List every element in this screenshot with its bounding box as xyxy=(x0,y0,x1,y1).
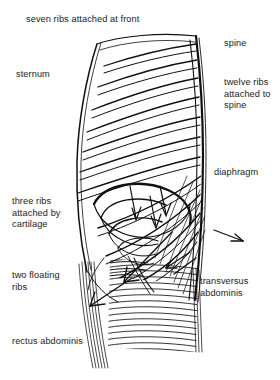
transversus-abdominis-fibres xyxy=(104,256,200,353)
label-seven-ribs-attached-at-front: seven ribs attached at front xyxy=(26,14,171,26)
rib-group-cartilage xyxy=(98,176,201,288)
anatomy-diagram: seven ribs attached at front spine stern… xyxy=(0,0,280,380)
label-two-floating-ribs: two floating ribs xyxy=(12,270,70,293)
label-three-ribs-attached-by-cartilage: three ribs attached by cartilage xyxy=(12,196,74,231)
label-transversus-abdominis: transversus abdominis xyxy=(200,276,280,299)
rib-group-upper xyxy=(78,44,200,201)
label-sternum: sternum xyxy=(16,69,86,81)
rectus-abdominis-fibres xyxy=(79,262,108,368)
label-spine: spine xyxy=(224,38,278,50)
label-rectus-abdominis: rectus abdominis xyxy=(12,336,84,348)
spine-structure xyxy=(189,36,206,302)
ribcage-illustration xyxy=(0,0,280,380)
label-twelve-ribs-attached-to-spine: twelve ribs attached to spine xyxy=(224,77,280,112)
label-diaphragm: diaphragm xyxy=(214,167,280,179)
lower-thorax-outline xyxy=(88,258,118,302)
thorax-apex xyxy=(97,34,196,44)
drawing-strokes xyxy=(77,34,243,368)
